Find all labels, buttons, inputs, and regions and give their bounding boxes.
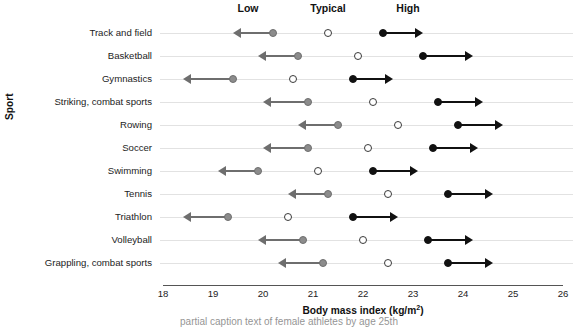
typical-marker [364,144,372,152]
high-range-line [353,78,387,80]
high-marker [429,144,437,152]
legend-label-high: High [396,2,419,14]
chart-row: Tennis [0,183,578,206]
y-axis-label: Volleyball [111,234,152,245]
x-tick-label: 24 [458,288,469,299]
high-marker [454,121,462,129]
chart-row: Triathlon [0,206,578,229]
low-marker [224,213,232,221]
high-range-line [428,239,467,241]
y-axis-label: Triathlon [115,211,152,222]
chart-row: Soccer [0,137,578,160]
low-marker [334,121,342,129]
low-arrow-icon [258,51,266,61]
y-axis-label: Basketball [108,50,152,61]
chart-row: Grappling, combat sports [0,252,578,275]
low-arrow-icon [278,258,286,268]
typical-marker [384,190,392,198]
y-axis-title: Sport [4,93,15,120]
low-marker [294,52,302,60]
high-arrow-icon [415,28,423,38]
high-range-line [423,55,467,57]
x-axis-line [163,285,563,286]
x-tick-label: 20 [258,288,269,299]
typical-marker [289,75,297,83]
x-axis-title: Body mass index (kg/m2) [302,304,423,316]
low-range-line [189,216,228,218]
typical-marker [354,52,362,60]
low-arrow-icon [183,212,191,222]
high-marker [434,98,442,106]
typical-marker [324,29,332,37]
chart-row: Volleyball [0,229,578,252]
y-axis-label: Gymnastics [102,73,152,84]
y-axis-label: Tennis [124,188,152,199]
high-arrow-icon [465,235,473,245]
typical-marker [314,167,322,175]
chart-row: Track and field [0,22,578,45]
high-marker [424,236,432,244]
typical-marker [359,236,367,244]
high-arrow-icon [410,166,418,176]
high-range-line [438,101,477,103]
low-marker [319,259,327,267]
x-tick-label: 26 [558,288,569,299]
low-range-line [269,147,308,149]
high-range-line [433,147,472,149]
x-tick-label: 21 [308,288,319,299]
low-marker [269,29,277,37]
typical-marker [369,98,377,106]
high-arrow-icon [495,120,503,130]
high-arrow-icon [470,143,478,153]
high-arrow-icon [485,258,493,268]
low-arrow-icon [258,235,266,245]
low-arrow-icon [288,189,296,199]
high-marker [419,52,427,60]
legend-label-typical: Typical [310,2,345,14]
y-axis-label: Swimming [108,165,152,176]
x-tick-label: 19 [208,288,219,299]
y-axis-label: Soccer [122,142,152,153]
high-marker [349,75,357,83]
high-range-line [448,193,487,195]
row-gridline [160,102,573,103]
typical-marker [394,121,402,129]
high-marker [379,29,387,37]
high-arrow-icon [485,189,493,199]
legend-label-low: Low [238,2,259,14]
low-arrow-icon [218,166,226,176]
low-marker [254,167,262,175]
y-axis-label: Rowing [120,119,152,130]
chart-row: Rowing [0,114,578,137]
high-arrow-icon [475,97,483,107]
y-axis-label: Grappling, combat sports [45,257,152,268]
bmi-by-sport-chart: LowTypicalHigh Track and fieldBasketball… [0,0,578,332]
high-arrow-icon [390,212,398,222]
row-gridline [160,125,573,126]
low-marker [229,75,237,83]
row-gridline [160,194,573,195]
x-tick-label: 18 [158,288,169,299]
x-tick-label: 25 [508,288,519,299]
chart-row: Gymnastics [0,68,578,91]
low-range-line [304,124,338,126]
low-range-line [264,239,303,241]
high-marker [369,167,377,175]
y-axis-label: Striking, combat sports [54,96,152,107]
row-gridline [160,56,573,57]
low-range-line [284,262,323,264]
low-range-line [189,78,233,80]
chart-row: Basketball [0,45,578,68]
chart-row: Striking, combat sports [0,91,578,114]
high-range-line [448,262,487,264]
high-marker [444,190,452,198]
y-axis-label: Track and field [89,27,152,38]
low-arrow-icon [263,143,271,153]
row-gridline [160,263,573,264]
high-range-line [353,216,392,218]
low-range-line [224,170,258,172]
low-arrow-icon [298,120,306,130]
high-arrow-icon [465,51,473,61]
x-tick-label: 22 [358,288,369,299]
low-arrow-icon [183,74,191,84]
